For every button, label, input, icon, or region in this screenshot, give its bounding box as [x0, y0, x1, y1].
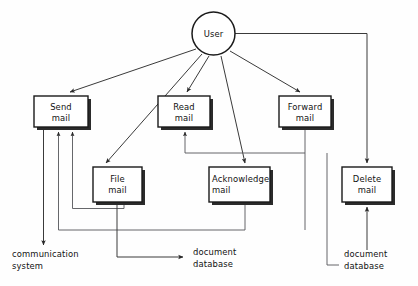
sink-document-database-right: document database [344, 249, 388, 271]
document-database-right-label-line1: document [344, 249, 388, 259]
actor-user[interactable]: User [192, 12, 235, 55]
document-database-left-label-line2: database [193, 259, 233, 269]
process-forward-mail[interactable]: Forward mail [279, 96, 334, 130]
flow-forward-mail-to-document-database [327, 153, 339, 265]
flow-user-to-read-mail [187, 56, 209, 92]
process-delete-mail[interactable]: Delete mail [342, 167, 395, 205]
document-database-left-label-line1: document [193, 247, 237, 257]
flow-connectors [44, 34, 368, 266]
user-label: User [204, 29, 224, 39]
process-read-mail[interactable]: Read mail [158, 96, 213, 130]
forward-mail-label-line2: mail [296, 113, 315, 123]
delete-mail-label-line2: mail [358, 185, 377, 195]
sink-document-database-left: document database [193, 247, 237, 269]
process-acknowledge-mail[interactable]: Acknowledge mail [209, 167, 273, 205]
dataflow-diagram: User Send mail Read mail Forward mail [0, 0, 418, 286]
process-send-mail[interactable]: Send mail [34, 96, 91, 130]
send-mail-label-line2: mail [52, 113, 71, 123]
send-mail-label-line1: Send [50, 102, 72, 112]
diagram-canvas-container: User Send mail Read mail Forward mail [0, 0, 418, 286]
delete-mail-label-line1: Delete [353, 174, 381, 184]
read-mail-label-line1: Read [173, 102, 195, 112]
flow-user-to-acknowledge-mail [221, 56, 245, 163]
flow-file-mail-to-document-database [117, 202, 183, 257]
sink-communication-system: communication system [12, 249, 79, 271]
communication-system-label-line1: communication [12, 249, 79, 259]
flow-forward-mail-to-read-mail [185, 127, 305, 153]
flow-user-to-send-mail [70, 49, 196, 92]
communication-system-label-line2: system [12, 261, 43, 271]
document-database-right-label-line2: database [344, 261, 384, 271]
flow-user-to-forward-mail [230, 51, 300, 92]
file-mail-label-line1: File [110, 174, 125, 184]
acknowledge-mail-label-line2: mail [212, 185, 231, 195]
forward-mail-label-line1: Forward [288, 102, 323, 112]
file-mail-label-line2: mail [108, 185, 127, 195]
process-file-mail[interactable]: File mail [93, 167, 145, 205]
acknowledge-mail-label-line1: Acknowledge [212, 174, 269, 184]
read-mail-label-line2: mail [175, 113, 194, 123]
